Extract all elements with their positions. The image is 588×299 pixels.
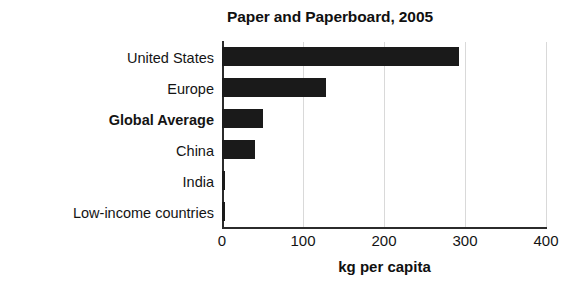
bar-low-income-countries [222, 202, 225, 221]
chart-title: Paper and Paperboard, 2005 [0, 8, 588, 26]
x-tick-200: 200 [371, 231, 396, 251]
chart-title-text: Paper and Paperboard, 2005 [227, 8, 433, 26]
category-label-low-income-countries: Low-income countries [73, 204, 214, 222]
category-label-united-states: United States [127, 49, 214, 67]
x-axis-tick-labels: 0100200300400 [0, 231, 588, 253]
category-label-china: China [176, 142, 214, 160]
bar-row [222, 73, 546, 104]
x-tick-400: 400 [533, 231, 558, 251]
x-axis-title: kg per capita [222, 258, 547, 275]
bar-row [222, 197, 546, 228]
x-tick-0: 0 [218, 231, 226, 251]
bar-row [222, 42, 546, 73]
category-label-europe: Europe [167, 80, 214, 98]
category-label-global-average: Global Average [109, 111, 214, 129]
bar-europe [222, 78, 326, 97]
bar-united-states [222, 47, 459, 66]
x-tick-300: 300 [452, 231, 477, 251]
plot-area [222, 42, 546, 228]
category-label-india: India [183, 173, 214, 191]
chart-figure: Paper and Paperboard, 2005 United States… [0, 0, 588, 299]
y-axis-category-labels: United StatesEuropeGlobal AverageChinaIn… [0, 42, 218, 228]
bar-global-average [222, 109, 263, 128]
bar-china [222, 140, 255, 159]
bar-row [222, 135, 546, 166]
gridline-400 [546, 42, 547, 228]
bar-row [222, 104, 546, 135]
bar-india [222, 171, 225, 190]
bar-row [222, 166, 546, 197]
x-tick-100: 100 [290, 231, 315, 251]
